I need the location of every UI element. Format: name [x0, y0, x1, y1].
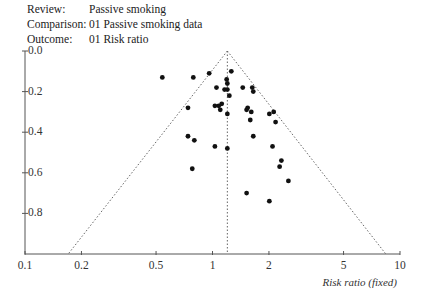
funnel-plot: 0.00.20.40.60.8 0.10.20.512510 Risk rati…: [0, 0, 423, 300]
study-point: [227, 93, 232, 98]
study-point: [267, 112, 272, 117]
study-point: [225, 81, 230, 86]
study-point: [277, 164, 282, 169]
study-point: [219, 101, 224, 106]
study-point: [160, 75, 165, 80]
study-point: [225, 87, 230, 92]
study-point: [240, 85, 245, 90]
x-tick-label: 2: [266, 259, 272, 271]
x-tick-label: 0.5: [149, 259, 164, 271]
y-tick-label: 0.2: [28, 85, 43, 97]
y-axis: 0.00.20.40.60.8: [22, 44, 43, 254]
study-point: [251, 134, 256, 139]
study-point: [244, 191, 249, 196]
study-point: [270, 144, 275, 149]
y-tick-label: 0.4: [28, 125, 43, 137]
study-point: [244, 107, 249, 112]
study-point: [213, 144, 218, 149]
y-tick-label: 0.6: [28, 166, 43, 178]
x-axis-title: Risk ratio (fixed): [321, 276, 397, 289]
study-point: [186, 134, 191, 139]
study-point: [267, 199, 272, 204]
study-point: [286, 179, 291, 184]
study-point: [273, 120, 278, 125]
study-point: [248, 118, 253, 123]
study-point: [271, 110, 276, 115]
study-point: [214, 85, 219, 90]
x-tick-label: 5: [341, 259, 347, 271]
study-point: [190, 166, 195, 171]
funnel-right-line: [227, 51, 385, 254]
funnel-left-line: [68, 51, 227, 254]
study-point: [224, 77, 229, 82]
x-tick-label: 0.1: [18, 259, 33, 271]
study-point: [218, 107, 223, 112]
study-point: [250, 85, 255, 90]
study-point: [191, 75, 196, 80]
study-point: [225, 112, 230, 117]
study-point: [249, 110, 254, 115]
x-tick-label: 0.2: [74, 259, 89, 271]
y-tick-label: 0.0: [28, 44, 43, 56]
y-tick-label: 0.8: [28, 206, 43, 218]
study-point: [251, 89, 256, 94]
x-tick-label: 10: [394, 259, 406, 271]
study-points: [160, 69, 291, 204]
study-point: [279, 158, 284, 163]
x-tick-label: 1: [210, 259, 216, 271]
study-point: [225, 146, 230, 151]
x-axis: 0.10.20.512510: [18, 251, 406, 271]
study-point: [229, 69, 234, 74]
study-point: [186, 105, 191, 110]
study-point: [192, 138, 197, 143]
study-point: [207, 71, 212, 76]
